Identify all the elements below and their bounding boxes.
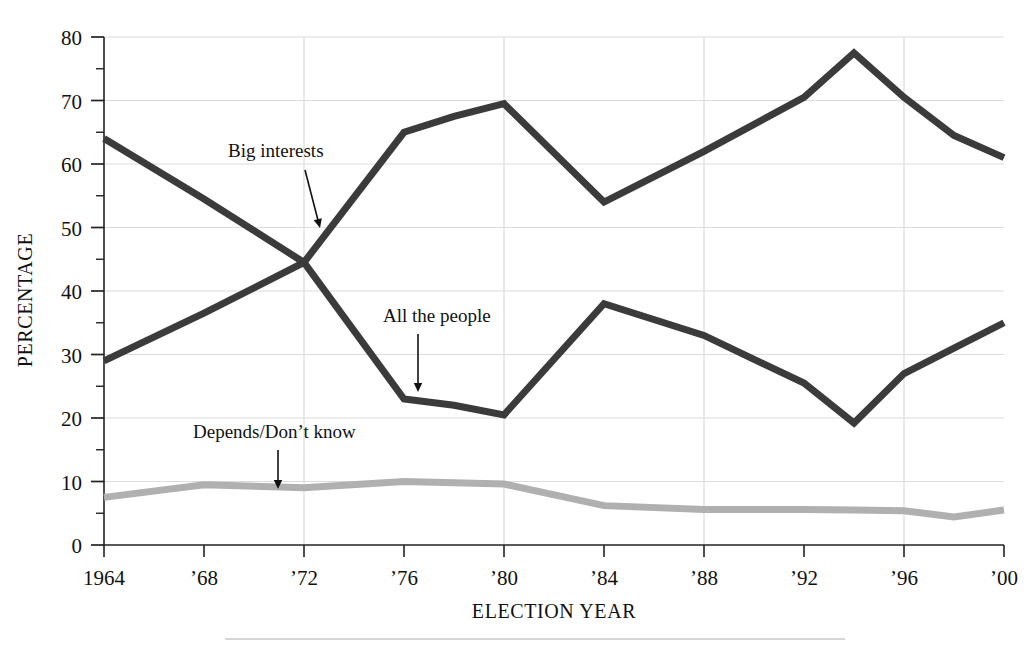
y-tick-label: 40: [61, 280, 82, 304]
y-tick-label: 80: [61, 26, 82, 50]
x-axis-label: ELECTION YEAR: [472, 600, 636, 622]
chart-background: [0, 0, 1036, 649]
y-tick-label: 20: [61, 407, 82, 431]
line-chart: 01020304050607080 1964’68’72’76’80’84’88…: [0, 0, 1036, 649]
x-tick-label: ’76: [390, 566, 418, 590]
annotation-label: Big interests: [228, 140, 324, 161]
y-tick-label: 30: [61, 344, 82, 368]
y-tick-label: 70: [61, 90, 82, 114]
x-tick-label: ’72: [290, 566, 318, 590]
x-tick-label: ’92: [790, 566, 818, 590]
x-tick-label: ’84: [590, 566, 618, 590]
x-tick-label: ’96: [890, 566, 918, 590]
y-tick-label: 10: [61, 471, 82, 495]
annotation-label: Depends/Don’t know: [193, 421, 356, 442]
x-tick-label: 1964: [83, 566, 126, 590]
y-tick-label: 50: [61, 217, 82, 241]
x-tick-label: ’68: [190, 566, 218, 590]
y-tick-label: 60: [61, 153, 82, 177]
x-tick-label: ’00: [990, 566, 1018, 590]
chart-page: 01020304050607080 1964’68’72’76’80’84’88…: [0, 0, 1036, 649]
x-tick-label: ’88: [690, 566, 718, 590]
y-axis-label: PERCENTAGE: [14, 233, 36, 367]
y-tick-label: 0: [72, 534, 83, 558]
x-tick-label: ’80: [490, 566, 518, 590]
y-axis-tick-labels: 01020304050607080: [61, 26, 82, 558]
annotation-label: All the people: [383, 305, 491, 326]
